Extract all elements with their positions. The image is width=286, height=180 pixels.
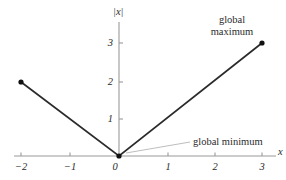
x-tick-label--1: −1 <box>64 162 76 173</box>
y-axis-ticks <box>119 43 123 119</box>
x-axis-title: x <box>278 147 283 158</box>
absolute-value-graph-figure: |x| x −2 −1 0 1 2 3 1 2 3 global maximum… <box>0 0 286 180</box>
x-tick-label-0: 0 <box>112 162 117 173</box>
global-maximum-annotation: global maximum <box>211 14 254 39</box>
x-tick-label-1: 1 <box>165 162 170 173</box>
y-axis-title: |x| <box>113 7 123 18</box>
global-minimum-annotation: global minimum <box>193 136 263 148</box>
left-endpoint-marker <box>18 79 23 84</box>
x-tick-label--2: −2 <box>15 162 27 173</box>
y-tick-label-2: 2 <box>103 77 113 88</box>
global-maximum-annotation-line2: maximum <box>211 26 254 38</box>
global-minimum-marker <box>116 153 121 158</box>
y-tick-label-1: 1 <box>103 114 113 125</box>
x-tick-label-2: 2 <box>212 162 217 173</box>
y-tick-label-3: 3 <box>103 38 113 49</box>
global-maximum-annotation-line1: global <box>211 14 254 26</box>
global-maximum-marker <box>259 40 264 45</box>
x-tick-label-3: 3 <box>259 162 264 173</box>
